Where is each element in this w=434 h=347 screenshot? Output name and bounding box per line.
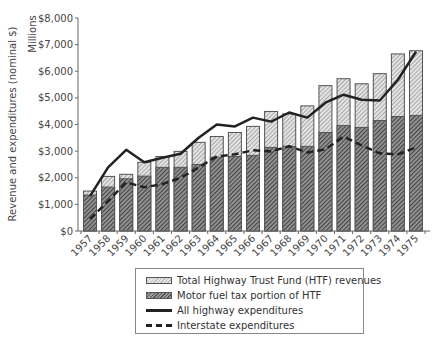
y-tick-label: $3,000 (38, 146, 73, 157)
bar-1958 (102, 176, 115, 231)
y-tick-label: $2,000 (38, 172, 73, 183)
y-tick-label: $8,000 (38, 13, 73, 24)
bar-1961 (156, 156, 169, 231)
dark-hatch-swatch-icon (146, 292, 172, 299)
y-tick-label: $4,000 (38, 119, 73, 130)
bar-1963 (192, 142, 205, 231)
bar-1962 (174, 151, 187, 231)
legend-label: Interstate expenditures (177, 320, 294, 331)
x-tick-label: 1975 (395, 233, 421, 259)
bar-1969 (301, 106, 314, 231)
bar-1965 (228, 132, 241, 231)
legend-label: Total Highway Trust Fund (HTF) revenues (177, 275, 381, 286)
y-axis-label: Revenue and expenditures (nominal $) (7, 26, 18, 221)
dashed-line-swatch-icon (146, 324, 172, 327)
bar-1968 (283, 114, 296, 231)
bar-1975 (410, 51, 423, 231)
solid-line-swatch-icon (146, 309, 172, 312)
y-axis-title: Revenue and expenditures (nominal $)Mill… (7, 15, 38, 221)
legend-label: Motor fuel tax portion of HTF (177, 290, 321, 301)
y-axis: $0$1,000$2,000$3,000$4,000$5,000$6,000$7… (38, 13, 78, 237)
bar-1971 (337, 79, 350, 231)
bar-1972 (355, 84, 368, 231)
legend-label: All highway expenditures (177, 305, 303, 316)
legend: Total Highway Trust Fund (HTF) revenues … (135, 268, 364, 334)
bar-1960 (138, 162, 151, 231)
y-tick-label: $5,000 (38, 92, 73, 103)
bar-1967 (265, 111, 278, 231)
bar-1966 (247, 126, 260, 231)
bar-1964 (210, 136, 223, 231)
legend-item-all-highway: All highway expenditures (146, 303, 303, 317)
light-hatch-swatch-icon (146, 277, 172, 284)
y-tick-label: $0 (60, 226, 73, 237)
legend-item-interstate: Interstate expenditures (146, 318, 294, 332)
legend-item-motor-fuel: Motor fuel tax portion of HTF (146, 288, 321, 302)
y-tick-label: $7,000 (38, 39, 73, 50)
bar-series (84, 51, 423, 231)
y-tick-label: $6,000 (38, 66, 73, 77)
y-tick-label: $1,000 (38, 199, 73, 210)
bar-1957 (84, 191, 97, 231)
x-axis: 1957195819591960196119621963196419651966… (69, 231, 430, 258)
legend-item-total-htf: Total Highway Trust Fund (HTF) revenues (146, 273, 381, 287)
y-axis-unit-label: Millions (27, 15, 38, 52)
